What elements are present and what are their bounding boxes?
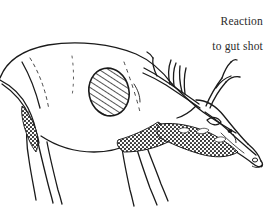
back-line: [0, 43, 172, 84]
antler-brow-tine: [177, 106, 196, 118]
antler-main-beam-2: [143, 73, 200, 108]
antler-tine-tip-1: [147, 52, 153, 58]
antler-main-beam: [144, 68, 199, 104]
front-leg-front: [136, 146, 157, 205]
antler-tine-1b: [184, 68, 186, 94]
belly-line: [41, 136, 130, 152]
flank-crease: [72, 56, 74, 96]
elk-line-drawing: [0, 0, 269, 211]
muzzle-tip: [261, 161, 263, 167]
front-leg-rear: [122, 148, 134, 206]
antler-second-tine-4: [231, 60, 237, 62]
illustration-figure: Reaction to gut shot: [0, 0, 269, 211]
antler-second-tine-2: [222, 62, 231, 78]
antler-tine-2: [169, 60, 171, 84]
nostril-icon: [252, 158, 257, 162]
hind-leg-front: [37, 138, 53, 203]
antler-second-tine-1: [216, 76, 231, 88]
antler-tine-2b: [173, 63, 176, 86]
hind-leg-inner: [47, 142, 62, 204]
antler-second-beam: [206, 78, 222, 106]
antler-tine-1: [180, 66, 182, 92]
hatched-gut-shot-zone: [84, 64, 133, 119]
front-leg-second: [145, 142, 168, 201]
